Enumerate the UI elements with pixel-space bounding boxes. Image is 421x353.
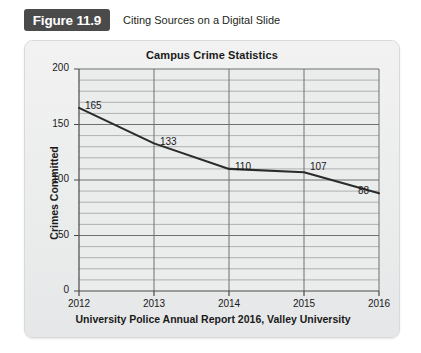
figure-header: Figure 11.9 Citing Sources on a Digital … [24,9,400,35]
data-label-2013: 133 [160,136,177,147]
x-tick-label-2014: 2014 [199,298,259,309]
x-axis-title: University Police Annual Report 2016, Va… [25,313,400,325]
x-tick-label-2016: 2016 [349,298,400,309]
figure-caption: Citing Sources on a Digital Slide [123,12,280,29]
data-label-2014: 110 [235,161,251,172]
y-tick-label-50: 50 [29,229,69,240]
y-tick-label-0: 0 [29,284,69,295]
x-axis-ticks [79,291,379,296]
x-tick-label-2013: 2013 [124,298,184,309]
x-tick-label-2015: 2015 [274,298,334,309]
data-label-2015: 107 [310,161,327,172]
y-axis-ticks [74,69,79,291]
y-tick-label-200: 200 [29,62,69,73]
x-tick-label-2012: 2012 [49,298,109,309]
slide-surface: Campus Crime Statistics [25,41,399,337]
y-tick-label-150: 150 [29,118,69,129]
data-label-2012: 165 [85,100,102,111]
data-label-2016: 88 [358,185,369,196]
line-chart: Crimes Committed University Police Annua… [25,41,400,338]
y-tick-label-100: 100 [29,173,69,184]
figure-number-badge: Figure 11.9 [24,9,110,31]
digital-slide-panel: Campus Crime Statistics [24,40,400,338]
chart-svg [25,41,400,338]
